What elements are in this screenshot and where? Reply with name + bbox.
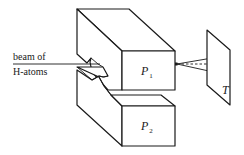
- magnet-p1-label: P1: [141, 64, 153, 80]
- beam-label-line2: H-atoms: [13, 67, 47, 77]
- magnet-p2-label-main: P: [141, 119, 148, 133]
- target-label: T: [222, 83, 229, 98]
- magnet-p2-label-sub: 2: [149, 127, 153, 135]
- stern-gerlach-diagram: beam of H-atoms P1 P2 T: [0, 0, 244, 155]
- beam-label-line1: beam of: [13, 52, 46, 62]
- magnet-p1-label-sub: 1: [149, 72, 153, 80]
- magnet-p1-label-main: P: [141, 64, 148, 78]
- magnet-p2-label: P2: [141, 119, 153, 135]
- magnet-p1: [77, 9, 175, 90]
- diagram-drawing: [0, 0, 244, 155]
